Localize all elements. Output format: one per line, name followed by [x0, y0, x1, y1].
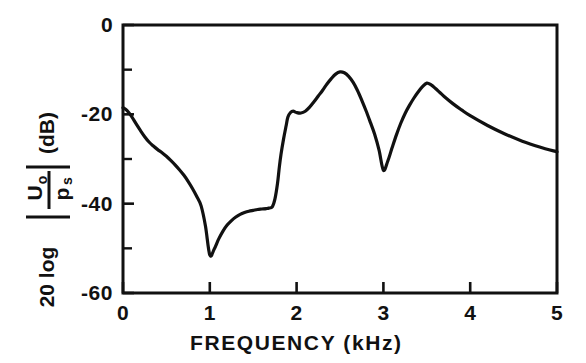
- x-axis-ticks: [123, 282, 557, 293]
- y-tick-label: -20: [81, 103, 113, 124]
- x-tick-label: 3: [377, 302, 389, 323]
- axis-frame: [123, 25, 557, 293]
- y-tick-label: 0: [101, 14, 113, 35]
- x-tick-label: 4: [464, 302, 476, 323]
- x-tick-label: 1: [204, 302, 216, 323]
- x-tick-label: 5: [551, 302, 563, 323]
- figure-container: 012345 0-20-40-60 FREQUENCY (kHz) 20 log…: [0, 0, 586, 363]
- axis-frame-path: [123, 25, 557, 293]
- y-tick-label: -40: [81, 193, 113, 214]
- x-tick-label: 2: [291, 302, 303, 323]
- x-axis-title: FREQUENCY (kHz): [190, 332, 403, 353]
- x-tick-label: 0: [117, 302, 129, 323]
- data-series-line: [123, 72, 557, 256]
- y-tick-label: -60: [81, 282, 113, 303]
